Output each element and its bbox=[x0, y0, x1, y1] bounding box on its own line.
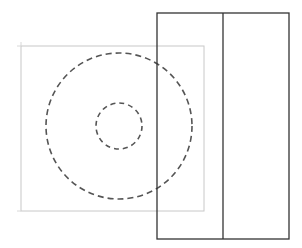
outer-dashed-circle bbox=[46, 53, 192, 199]
bounding-square bbox=[21, 46, 204, 211]
inner-dashed-circle bbox=[96, 103, 142, 149]
diagram-canvas bbox=[0, 0, 302, 248]
